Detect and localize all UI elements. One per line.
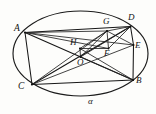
segment-C-B: [32, 80, 133, 85]
vertex-dot-G: [106, 30, 108, 32]
point-label-E: E: [135, 41, 141, 50]
point-label-C: C: [18, 82, 24, 92]
point-label-A: A: [14, 24, 20, 34]
geometry-figure: A G D E F H O B C α: [0, 0, 156, 114]
point-label-O: O: [77, 58, 84, 67]
region-label-alpha: α: [88, 96, 93, 106]
segment-O-B: [81, 57, 134, 80]
cevian-group: [25, 27, 134, 85]
point-label-B: B: [136, 76, 142, 85]
point-label-G: G: [103, 17, 110, 26]
vertex-dot-C: [31, 83, 33, 85]
vertex-dot-B: [132, 79, 134, 81]
point-label-H: H: [70, 38, 77, 47]
segment-A-C: [25, 33, 32, 85]
point-label-F: F: [104, 49, 110, 58]
vertex-dot-A: [24, 31, 26, 33]
segment-D-E: [131, 27, 134, 46]
vertex-dot-D: [130, 26, 132, 28]
segment-H-O: [80, 49, 81, 58]
segment-E-B: [133, 45, 134, 80]
point-label-D: D: [128, 13, 135, 22]
vertex-dot-H: [79, 48, 81, 50]
